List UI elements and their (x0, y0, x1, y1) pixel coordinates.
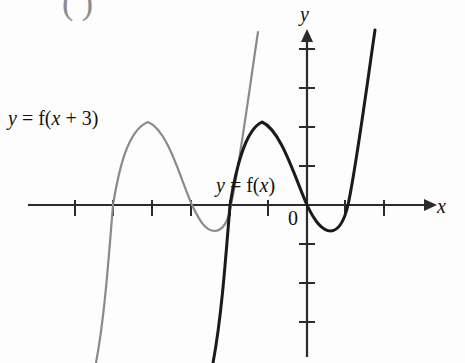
curve-shifted-f-x-plus-3 (96, 32, 258, 363)
curve-base-f-x (213, 30, 375, 363)
label-base-curve: y = f(x) (216, 175, 275, 195)
label-axis-x: x (437, 196, 446, 216)
label-shifted-curve: y = f(x + 3) (8, 108, 98, 128)
x-axis-arrow-icon (424, 199, 437, 211)
label-axis-y: y (300, 4, 309, 24)
graph-figure: ( ) (0, 0, 465, 363)
y-axis-arrow-icon (301, 29, 313, 42)
label-origin: 0 (288, 208, 298, 228)
